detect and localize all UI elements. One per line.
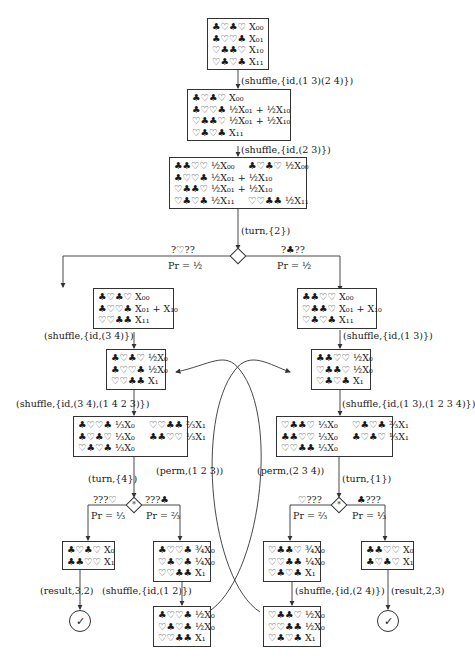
node-right-shuffled: ♡♣♣♡ ⅓X₀ ♣♣♡♡ ⅓X₀ ♡♡♣♣ ⅓X₀ ♡♣♡♣ ⅔X₁ ♣♡♣♡… xyxy=(276,416,393,457)
branch-obs: ???♣ xyxy=(145,494,169,505)
node-initial: ♣♡♣♡ X₀₀ ♣♡♡♣ X₀₁ ♡♣♣♡ X₁₀ ♡♣♡♣ X₁₁ xyxy=(207,18,269,70)
line: ♣♡♣♡ X₀₀ xyxy=(98,291,169,303)
line: ♡♣♡♣ ½X₀ xyxy=(158,621,206,633)
line: ♡♣♣♡ X₁₀ xyxy=(212,44,264,56)
node-left-branch2: ♣♡♡♣ ¾X₀ ♡♣♡♣ ¼X₀ ♡♡♣♣ X₁ xyxy=(153,541,211,582)
line: ♣♡♡♣ ½X₀₁ + ½X₁₀ xyxy=(192,104,286,116)
line: ♡♣♡♣ ⅔X₁ xyxy=(352,419,409,431)
branch-obs: ?♡?? xyxy=(171,244,195,255)
branch-obs: ♡??? xyxy=(298,494,322,505)
line: ♣♡♣♡ ½X₀ xyxy=(111,352,161,364)
edge-label: (result,3,2) xyxy=(40,585,94,596)
line: ♣♣♡♡ ⅓X₁ xyxy=(149,431,206,443)
branch-pr: Pr = ½ xyxy=(277,260,311,271)
line: ♡♡♣♣ ⅓X₀ xyxy=(281,442,338,454)
edge-label: (shuffle,{id,(2 4)}) xyxy=(295,585,385,596)
line: ♣♡♣♡ X₀ xyxy=(67,544,110,556)
branch-pr: Pr = ⅔ xyxy=(293,510,327,521)
line: ♣♡♣♡ X₀₀ xyxy=(192,92,286,104)
line: ♡♣♣♡ X₀₁ + X₁₀ xyxy=(302,303,372,315)
node-right-after-turn: ♣♣♡♡ X₀₀ ♡♣♣♡ X₀₁ + X₁₀ ♡♣♡♣ X₁₁ xyxy=(297,288,377,329)
line: ♣♣♡♡ X₁ xyxy=(67,556,110,568)
decision-symbol: * xyxy=(132,501,136,509)
line: ♣♡♡♣ ½X₀ xyxy=(111,364,161,376)
line: ♡♣♣♡ ½X₀ xyxy=(268,609,316,621)
line: ♡♣♡♣ X₁₁ xyxy=(302,314,372,326)
line: ♣♣♡♡ ½X₀ xyxy=(316,352,366,364)
line: ♣♡♡♣ ½X₀ xyxy=(158,609,206,621)
edge-label: (turn,{2}) xyxy=(241,225,290,236)
line: ♡♣♣♡ ¾X₀ xyxy=(268,544,316,556)
node-shuffle2: ♣♣♡♡ ½X₀₀ ♣♡♡♣ ½X₀₁ + ½X₁₀ ♡♣♣♡ ½X₀₁ + ½… xyxy=(169,157,307,209)
branch-obs: ?♣?? xyxy=(281,244,305,255)
line: ♣♡♡♣ ¾X₀ xyxy=(158,544,206,556)
node-left-mid: ♣♡♣♡ ½X₀ ♣♡♡♣ ½X₀ ♡♡♣♣ X₁ xyxy=(106,349,166,390)
line: ♣♡♡♣ X₀₁ + X₁₀ xyxy=(98,303,169,315)
edge-label: (perm,(2 3 4)) xyxy=(257,465,324,476)
edge-label: (shuffle,{id,(3 4)}) xyxy=(44,330,134,341)
edge-label: (shuffle,{id,(1 2)}) xyxy=(102,585,192,596)
line: ♣♡♣♡ X₀₀ xyxy=(212,21,264,33)
line: ♡♣♣♡ ½X₀₁ + ½X₁₀ xyxy=(192,115,286,127)
line: ♡♣♡♣ X₁ xyxy=(268,567,316,579)
branch-pr: Pr = ⅔ xyxy=(146,510,180,521)
line: ♣♡♡♣ X₀₁ xyxy=(212,33,264,45)
node-left-shuffled: ♣♡♡♣ ⅓X₀ ♣♡♣♡ ⅓X₀ ♡♣♡♣ ⅓X₀ ♡♡♣♣ ⅔X₁ ♣♣♡♡… xyxy=(73,416,188,457)
line: ♡♡♣♣ X₁ xyxy=(158,567,206,579)
checkmark: ✓ xyxy=(384,615,393,628)
node-left-final: ♣♡♡♣ ½X₀ ♡♣♡♣ ½X₀ ♡♡♣♣ X₁ xyxy=(153,606,211,647)
line: ♡♡♣♣ ¼X₀ xyxy=(268,556,316,568)
line: ♡♡♣♣ X₁ xyxy=(111,375,161,387)
node-right-final: ♡♣♣♡ ½X₀ ♡♡♣♣ ½X₀ ♡♣♡♣ X₁ xyxy=(263,606,321,647)
node-shuffle1: ♣♡♣♡ X₀₀ ♣♡♡♣ ½X₀₁ + ½X₁₀ ♡♣♣♡ ½X₀₁ + ½X… xyxy=(187,89,291,141)
node-leaf-right: ♣♣♡♡ X₀ ♣♡♣♡ X₁ xyxy=(361,541,414,570)
node-right-branch2: ♡♣♣♡ ¾X₀ ♡♡♣♣ ¼X₀ ♡♣♡♣ X₁ xyxy=(263,541,321,582)
edge-label: (shuffle,{id,(2 3)}) xyxy=(241,144,331,155)
node-leaf-left: ♣♡♣♡ X₀ ♣♣♡♡ X₁ xyxy=(62,541,115,570)
line: ♡♡♣♣ ½X₀ xyxy=(268,621,316,633)
edge-label: (shuffle,{id,(1 3),(1 2 3 4)}) xyxy=(342,398,475,409)
line: ♡♡♣♣ ⅔X₁ xyxy=(149,419,206,431)
line: ♣♡♣♡ X₁ xyxy=(366,556,409,568)
line: ♡♣♡♣ X₁ xyxy=(316,375,366,387)
edge-label: (perm,(1 2 3)) xyxy=(156,465,223,476)
line: ♣♡♣♡ ½X₀₀ xyxy=(248,160,309,172)
branch-obs: ♣??? xyxy=(357,494,381,505)
node-right-mid: ♣♣♡♡ ½X₀ ♡♣♣♡ ½X₀ ♡♣♡♣ X₁ xyxy=(311,349,371,390)
line: ♣♡♡♣ ⅓X₀ xyxy=(78,419,135,431)
line: ♡♡♣♣ X₁ xyxy=(158,632,206,644)
line: ♣♣♡♡ X₀₀ xyxy=(302,291,372,303)
edge-label: (result,2,3) xyxy=(391,585,445,596)
branch-pr: Pr = ⅓ xyxy=(352,510,386,521)
line: ♡♡♣♣ ½X₁₁ xyxy=(248,195,309,207)
edge-label: (turn,{4}) xyxy=(88,473,137,484)
edge-label: (shuffle,{id,(3 4),(1 4 2 3)}) xyxy=(16,398,149,409)
branch-pr: Pr = ½ xyxy=(168,260,202,271)
check-icon: ✓ xyxy=(69,610,91,632)
line: ♡♣♣♡ ⅓X₀ xyxy=(281,419,338,431)
line: ♣♣♡♡ X₀ xyxy=(366,544,409,556)
line: ♡♣♡♣ ⅓X₀ xyxy=(78,442,135,454)
edge-label: (turn,{1}) xyxy=(342,473,391,484)
line: ♡♣♡♣ X₁₁ xyxy=(212,56,264,68)
node-left-after-turn: ♣♡♣♡ X₀₀ ♣♡♡♣ X₀₁ + X₁₀ ♡♡♣♣ X₁₁ xyxy=(93,288,174,329)
line: ♡♣♡♣ ¼X₀ xyxy=(158,556,206,568)
line: ♡♣♡♣ X₁₁ xyxy=(192,127,286,139)
line: ♡♡♣♣ X₁₁ xyxy=(98,314,169,326)
check-icon: ✓ xyxy=(377,610,399,632)
line: ♣♡♣♡ ⅓X₀ xyxy=(78,431,135,443)
edge-label: (shuffle,{id,(1 3)}) xyxy=(343,330,433,341)
line: ♡♣♡♣ X₁ xyxy=(268,632,316,644)
branch-obs: ???♡ xyxy=(93,494,117,505)
edge-label: (shuffle,{id,(1 3)(2 4)}) xyxy=(241,75,353,86)
branch-pr: Pr = ⅓ xyxy=(91,510,125,521)
line: ♡♣♣♡ ½X₀ xyxy=(316,364,366,376)
line: ♣♡♣♡ ⅓X₁ xyxy=(352,431,409,443)
checkmark: ✓ xyxy=(76,615,85,628)
line: ♣♣♡♡ ⅓X₀ xyxy=(281,431,338,443)
decision-symbol: * xyxy=(337,501,341,509)
